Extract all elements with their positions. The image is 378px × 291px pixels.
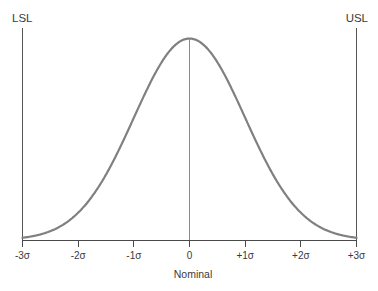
lower-spec-limit-label: LSL <box>12 12 33 24</box>
process-capability-chart: LSL USL -3σ -2σ -1σ 0 +1σ +2σ +3σ Nomina… <box>0 0 378 291</box>
x-tick-label-minus-3-sigma: -3σ <box>15 250 31 261</box>
x-tick-label-minus-1-sigma: -1σ <box>126 250 142 261</box>
x-tick-label-plus-2-sigma: +2σ <box>292 250 310 261</box>
x-axis-title: Nominal <box>174 268 213 280</box>
chart-canvas: LSL USL -3σ -2σ -1σ 0 +1σ +2σ +3σ Nomina… <box>0 0 378 291</box>
x-tick-label-zero: 0 <box>187 250 193 261</box>
x-tick-label-minus-2-sigma: -2σ <box>71 250 87 261</box>
upper-spec-limit-label: USL <box>346 12 369 24</box>
x-tick-label-plus-1-sigma: +1σ <box>236 250 254 261</box>
x-tick-label-plus-3-sigma: +3σ <box>348 250 366 261</box>
